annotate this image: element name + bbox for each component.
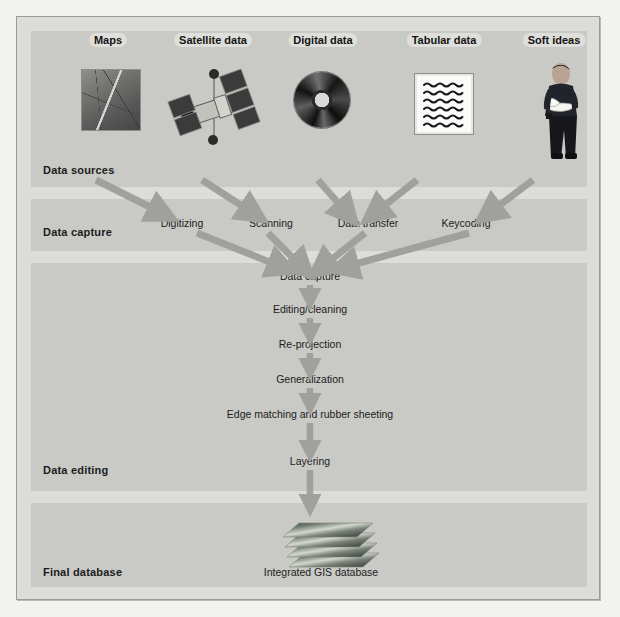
pipeline-node-edge-matching: Edge matching and rubber sheeting xyxy=(227,408,393,420)
source-label-maps: Maps xyxy=(89,33,127,47)
document-lines-icon xyxy=(414,73,474,135)
person-reading-icon xyxy=(527,61,593,161)
pipeline-node-layering: Layering xyxy=(290,455,330,467)
map-thumbnail-icon xyxy=(81,69,141,131)
compact-disc-icon xyxy=(294,72,350,128)
diagram-panel: Data sources Data capture Data editing F… xyxy=(16,16,600,600)
final-database-label: Integrated GIS database xyxy=(264,566,378,578)
capture-node-data-transfer: Data transfer xyxy=(338,217,399,229)
satellite-icon xyxy=(165,61,261,157)
source-label-soft-ideas: Soft ideas xyxy=(523,33,586,47)
pipeline-node-editing-cleaning: Editing/cleaning xyxy=(273,303,347,315)
capture-node-keycoding: Keycoding xyxy=(441,217,490,229)
pipeline-node-re-projection: Re-projection xyxy=(279,338,341,350)
capture-node-digitizing: Digitizing xyxy=(161,217,204,229)
row-label-data-editing: Data editing xyxy=(43,464,108,476)
row-label-final-database: Final database xyxy=(43,566,122,578)
capture-node-scanning: Scanning xyxy=(249,217,293,229)
row-label-data-sources: Data sources xyxy=(43,164,115,176)
pipeline-node-data-capture: Data capture xyxy=(280,270,340,282)
source-label-digital-data: Digital data xyxy=(288,33,357,47)
pipeline-node-generalization: Generalization xyxy=(276,373,344,385)
source-label-tabular-data: Tabular data xyxy=(407,33,482,47)
source-label-satellite-data: Satellite data xyxy=(174,33,252,47)
band-data-capture xyxy=(31,199,587,251)
row-label-data-capture: Data capture xyxy=(43,226,112,238)
